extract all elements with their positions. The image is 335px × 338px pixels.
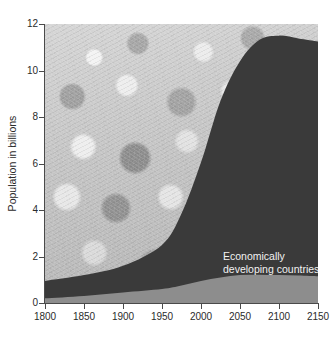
- x-tick-1950: [162, 304, 163, 309]
- x-tick-label-2100: 2100: [268, 311, 290, 322]
- x-tick-1850: [84, 304, 85, 309]
- x-tick-label-1800: 1800: [34, 311, 56, 322]
- y-tick-0: [39, 303, 44, 304]
- y-tick-8: [39, 117, 44, 118]
- x-tick-label-2150: 2150: [307, 311, 329, 322]
- y-axis-line: [44, 24, 45, 304]
- y-tick-12: [39, 24, 44, 25]
- x-axis-line: [44, 303, 319, 304]
- x-tick-1800: [45, 304, 46, 309]
- x-tick-label-1900: 1900: [112, 311, 134, 322]
- y-tick-label-2: 2: [32, 252, 38, 262]
- population-projection-chart: Economically developing countries Indust…: [0, 0, 335, 338]
- plot-area: Economically developing countries Indust…: [45, 24, 318, 303]
- x-tick-label-2000: 2000: [190, 311, 212, 322]
- annotation-economically-developing-countries: Economically developing countries: [223, 250, 318, 276]
- x-tick-2100: [279, 304, 280, 309]
- x-tick-2150: [318, 304, 319, 309]
- y-tick-4: [39, 210, 44, 211]
- x-tick-2050: [240, 304, 241, 309]
- annotation-developing-line-2: developing countries: [223, 263, 318, 276]
- x-tick-label-2050: 2050: [229, 311, 251, 322]
- y-tick-label-0: 0: [32, 298, 38, 308]
- y-tick-label-12: 12: [27, 19, 38, 29]
- x-tick-2000: [201, 304, 202, 309]
- y-axis-title: Population in billions: [6, 24, 18, 303]
- annotation-developing-line-1: Economically: [223, 250, 318, 263]
- x-tick-1900: [123, 304, 124, 309]
- y-tick-6: [39, 164, 44, 165]
- y-tick-10: [39, 71, 44, 72]
- x-tick-label-1950: 1950: [151, 311, 173, 322]
- y-tick-label-10: 10: [27, 66, 38, 76]
- y-tick-label-6: 6: [32, 159, 38, 169]
- y-tick-label-8: 8: [32, 112, 38, 122]
- y-tick-2: [39, 257, 44, 258]
- y-tick-label-4: 4: [32, 205, 38, 215]
- x-tick-label-1850: 1850: [73, 311, 95, 322]
